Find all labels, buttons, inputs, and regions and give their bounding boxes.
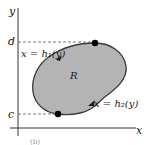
x-axis-label: x: [136, 124, 143, 137]
top-point: [92, 40, 98, 46]
right-boundary-label: x = h₂(y): [94, 98, 138, 109]
type-ii-region-diagram: y x d c R x = h₁(y) x = h₂(y) (b): [0, 0, 144, 145]
region-label: R: [69, 70, 78, 81]
c-label: c: [8, 108, 14, 121]
d-label: d: [8, 35, 15, 48]
bottom-point: [55, 111, 61, 117]
figure-caption: (b): [30, 138, 40, 145]
y-axis-label: y: [8, 5, 16, 18]
left-boundary-label: x = h₁(y): [21, 48, 65, 59]
